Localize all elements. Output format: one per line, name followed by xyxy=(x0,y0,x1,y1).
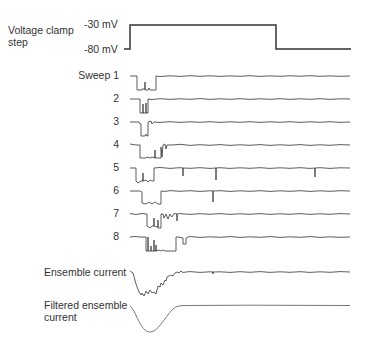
sweep-trace-3 xyxy=(130,121,350,136)
filtered-ensemble-trace xyxy=(130,305,350,332)
sweep-trace-7 xyxy=(130,214,350,229)
sweep-trace-8 xyxy=(130,237,350,252)
traces-diagram xyxy=(0,0,369,351)
sweep-trace-5 xyxy=(130,168,350,184)
ensemble-current-trace xyxy=(130,271,350,296)
sweep-trace-6 xyxy=(130,191,350,204)
sweep-trace-1 xyxy=(130,76,350,90)
sweep-trace-4 xyxy=(130,144,350,158)
voltage-step-trace xyxy=(124,25,351,49)
sweep-trace-2 xyxy=(130,99,350,113)
